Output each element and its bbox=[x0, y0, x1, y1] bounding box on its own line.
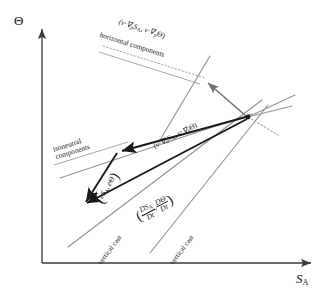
sa-theta-vector-diagram: Θ SA (v·∇pSA, v·∇pΘ) horizontal componen… bbox=[0, 0, 329, 297]
x-axis-label-sub: A bbox=[303, 278, 309, 287]
diagram-canvas bbox=[0, 0, 329, 297]
x-axis-label: SA bbox=[296, 272, 308, 287]
radiating-line-upper bbox=[248, 95, 295, 117]
radiating-line-lower bbox=[248, 106, 292, 117]
convergence-point-dot bbox=[246, 115, 251, 120]
dotted-extension-line bbox=[248, 117, 278, 135]
y-axis-label: Θ bbox=[14, 14, 23, 28]
vertical-cast-line-left bbox=[68, 100, 262, 247]
horizontal-components-arrow bbox=[208, 83, 246, 116]
caption-underline-horizontal bbox=[99, 52, 200, 84]
